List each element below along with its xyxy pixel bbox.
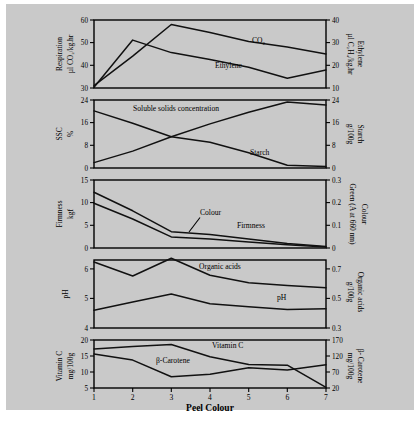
panel-4-right-axis-label-bottom: g/100g [346, 282, 355, 303]
panel-5-right-tick-2: 120 [332, 353, 343, 361]
panel-3-left-axis: 0 5 10 15 Firmness kgf [55, 177, 94, 253]
panel-4-left-tick-1: 5 [84, 295, 88, 303]
panel-2-right-tick-3: 24 [332, 97, 340, 105]
x-tick-label-2: 2 [131, 393, 135, 402]
panel-5-right-tick-0: 20 [332, 385, 340, 393]
panel-1-right-axis-label-top: Ethylene [356, 41, 365, 68]
panel-3-left-tick-3: 15 [81, 177, 89, 185]
panel-1-right-axis: 10 20 30 40 Ethylene µl C₂H₄/kg.hr [326, 17, 365, 93]
series-label-ethylene: Ethylene [215, 61, 243, 70]
series-label-vitamin-c: Vitamin C [212, 341, 243, 350]
panel-5-left-tick-2: 15 [81, 353, 89, 361]
panel-4-right-tick-0: 0.3 [332, 325, 341, 333]
panel-1-left-tick-0: 30 [81, 85, 89, 93]
panel-2-left-tick-1: 8 [84, 142, 88, 150]
panel-3-left-axis-label-top: Firmness [55, 200, 64, 227]
series-label-starch: Starch [250, 148, 270, 157]
series-label-firmness: Firmness [237, 221, 265, 230]
panel-2-left-axis-label-bottom: % [66, 131, 75, 137]
x-tick-label-3: 3 [169, 393, 173, 402]
panel-5-left-axis-label-bottom: mg/100g [66, 353, 75, 380]
panel-3-right-tick-3: 0.3 [332, 177, 341, 185]
panel-1-left-axis: 30 40 50 60 Respiration µl CO₂/kg.hr [55, 17, 94, 93]
panel-5-left-axis: 5 10 15 20 Vitamin C mg/100g [55, 337, 94, 393]
panel-3-right-tick-1: 0.1 [332, 222, 341, 230]
series-label-ph: pH [277, 293, 287, 302]
panel-ssc-starch: 0 8 16 24 SSC % 0 8 16 24 Starch g/100g [55, 97, 365, 173]
panel-3-right-axis-label-top: Colour [360, 204, 369, 225]
panel-3-left-axis-label-bottom: kgf [66, 209, 75, 219]
series-label-colour: Colour [200, 208, 222, 217]
panel-3-left-tick-0: 0 [84, 245, 88, 253]
panel-2-right-axis: 0 8 16 24 Starch g/100g [326, 97, 365, 173]
panel-1-right-axis-label-bottom: µl C₂H₄/kg.hr [346, 33, 355, 75]
x-tick-label-6: 6 [285, 393, 289, 402]
panel-4-left-tick-2: 6 [84, 266, 88, 274]
series-label-co2: CO₂ [252, 36, 266, 45]
curve-starch [94, 111, 326, 167]
x-tick-label-4: 4 [208, 393, 212, 402]
panel-3-right-axis-label-bottom: Green (A at 660 nm) [348, 183, 357, 245]
panel-1-right-tick-0: 10 [332, 85, 340, 93]
x-tick-label-7: 7 [324, 393, 328, 402]
panel-1-left-tick-3: 60 [81, 17, 89, 25]
panel-2-right-tick-2: 16 [332, 119, 340, 127]
x-axis-title: Peel Colour [186, 403, 235, 413]
panel-4-left-axis: 4 5 6 pH [61, 266, 94, 333]
panel-5-left-tick-3: 20 [81, 337, 89, 345]
panel-1-right-tick-1: 20 [332, 62, 340, 70]
series-label-beta-carotene: β-Carotene [156, 356, 190, 365]
x-tick-label-5: 5 [247, 393, 251, 402]
panel-3-left-tick-2: 10 [81, 199, 89, 207]
panel-4-right-tick-1: 0.5 [332, 295, 341, 303]
figure-page: 30 40 50 60 Respiration µl CO₂/kg.hr 10 … [0, 0, 420, 423]
panel-5-left-axis-label-top: Vitamin C [55, 351, 64, 382]
panel-5-right-axis-label-top: β- Carotene [356, 349, 365, 384]
panel-3-right-tick-2: 0.2 [332, 199, 341, 207]
panel-1-left-tick-2: 50 [81, 39, 89, 47]
panel-3-left-tick-1: 5 [84, 222, 88, 230]
colour-leader-line [189, 218, 200, 233]
panel-5-right-tick-1: 70 [332, 369, 340, 377]
panel-5-right-axis: 20 70 120 170 β- Carotene mg/100g [326, 337, 365, 393]
panel-1-right-tick-2: 30 [332, 39, 340, 47]
panel-2-left-axis: 0 8 16 24 SSC % [55, 97, 94, 173]
panel-1-left-tick-1: 40 [81, 62, 89, 70]
panel-4-right-axis-label-top: Organic acids [356, 272, 365, 313]
series-label-organic-acids: Organic acids [199, 262, 241, 271]
x-tick-label-1: 1 [92, 393, 96, 402]
panel-5-right-axis-label-bottom: mg/100g [346, 353, 355, 380]
panel-4-right-tick-2: 0.7 [332, 266, 341, 274]
panel-3-right-axis: 0 0.1 0.2 0.3 Colour Green (A at 660 nm) [326, 177, 369, 253]
panel-5-left-tick-0: 5 [84, 385, 88, 393]
panel-1-right-tick-3: 40 [332, 17, 340, 25]
curve-vitamin-c [94, 345, 326, 388]
series-label-soluble-solids: Soluble solids concentration [133, 104, 219, 113]
panel-5-right-tick-3: 170 [332, 337, 343, 345]
curve-co2 [94, 25, 326, 86]
panel-5-left-tick-1: 10 [81, 369, 89, 377]
curve-ph [94, 294, 326, 310]
panel-2-right-axis-label-top: Starch [356, 125, 365, 144]
panel-2-left-tick-3: 24 [81, 97, 89, 105]
panel-firmness-colour: 0 5 10 15 Firmness kgf 0 0.1 0.2 0.3 Col… [55, 177, 369, 253]
panel-2-left-axis-label-top: SSC [55, 127, 64, 140]
panel-2-right-tick-1: 8 [332, 142, 336, 150]
panel-2-right-axis-label-bottom: g/100g [346, 124, 355, 145]
multi-panel-line-chart: 30 40 50 60 Respiration µl CO₂/kg.hr 10 … [0, 0, 420, 423]
panel-respiration-ethylene: 30 40 50 60 Respiration µl CO₂/kg.hr 10 … [55, 17, 365, 93]
panel-2-left-tick-2: 16 [81, 119, 89, 127]
panel-2-left-tick-0: 0 [84, 165, 88, 173]
panel-4-left-tick-0: 4 [84, 325, 88, 333]
panel-vitaminc-carotene: 5 10 15 20 Vitamin C mg/100g 20 70 120 1… [55, 337, 365, 393]
x-axis: 1 2 3 4 5 6 7 Peel Colour [92, 388, 328, 413]
panel-4-right-axis: 0.3 0.5 0.7 Organic acids g/100g [326, 266, 365, 333]
panel-1-left-axis-label-top: Respiration [55, 37, 64, 71]
panel-3-right-tick-0: 0 [332, 245, 336, 253]
panel-ph-organic-acids: 4 5 6 pH 0.3 0.5 0.7 Organic acids g/100… [61, 258, 365, 332]
panel-4-left-axis-label-top: pH [61, 289, 70, 299]
panel-2-right-tick-0: 0 [332, 165, 336, 173]
panel-1-left-axis-label-bottom: µl CO₂/kg.hr [66, 34, 75, 73]
